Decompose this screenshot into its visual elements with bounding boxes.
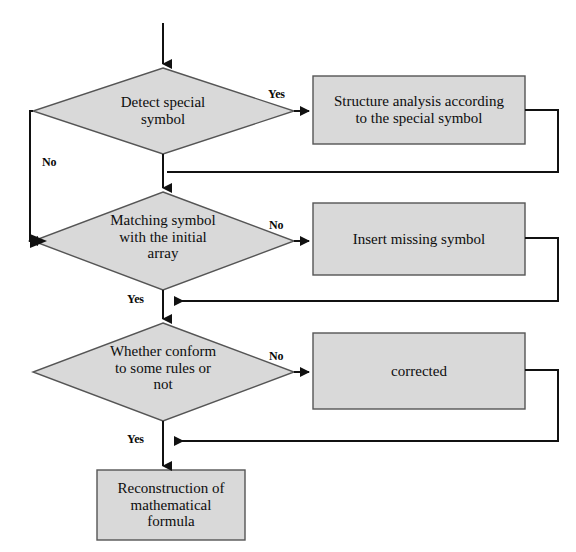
decision-node-matching-symbol (33, 192, 294, 290)
edge-label-decision1-no: No (42, 155, 56, 170)
edge-label-decision1-yes: Yes (268, 87, 294, 102)
edge-decision1-no-to-decision2 (29, 111, 33, 241)
decision-node-whether-conform (33, 323, 294, 421)
flowchart-connectors (0, 0, 576, 552)
process-node-insert-missing-symbol (313, 203, 525, 275)
flowchart-canvas: Detect special symbol Structure analysis… (0, 0, 576, 552)
edge-label-decision2-no: No (269, 218, 283, 233)
edge-label-decision3-yes: Yes (127, 432, 152, 447)
edge-label-decision3-no: No (269, 349, 283, 364)
decision-node-detect-special-symbol (33, 68, 294, 154)
edge-label-decision2-yes: Yes (127, 292, 152, 307)
process-node-structure-analysis (313, 76, 525, 144)
process-node-corrected (313, 333, 525, 409)
terminal-node-reconstruction (97, 470, 245, 540)
